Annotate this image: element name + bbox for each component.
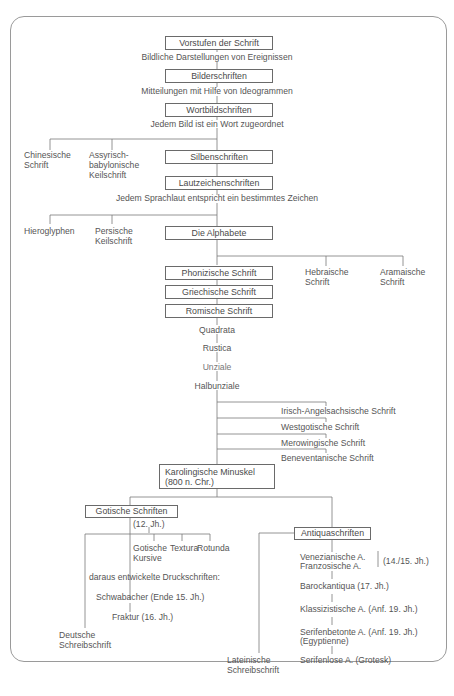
node-hebraeisch-1: Hebraische: [305, 267, 348, 277]
node-franzoesisch: Franzosische A.: [300, 561, 361, 571]
box-gotisch: Gotische Schriften: [85, 505, 178, 518]
node-lateinisch-2: Schreibschrift: [227, 665, 279, 675]
node-lateinisch-1: Lateinische: [227, 655, 270, 665]
karolingisch-label: Karolingische Minuskel: [165, 467, 274, 477]
gotisch-date: (12. Jh.): [133, 519, 165, 529]
node-chinesische-schrift-2: Schrift: [24, 160, 48, 170]
node-gotische-kursive-2: Kursive: [133, 553, 162, 563]
ven-fr-date: (14./15. Jh.): [383, 556, 429, 566]
node-rustica: Rustica: [203, 343, 232, 353]
box-silbenschriften: Silbenschriften: [165, 150, 273, 164]
node-egyptienne: (Egyptienne): [300, 636, 349, 646]
node-gotische-kursive-1: Gotische: [133, 543, 167, 553]
box-bilderschriften: Bilderschriften: [165, 69, 273, 83]
node-deutsche-schreibschrift-2: Schreibschrift: [59, 640, 111, 650]
node-persisch-2: Keilschrift: [95, 236, 132, 246]
node-klassizistisch: Klassizistische A. (Anf. 19. Jh.): [300, 604, 418, 614]
node-halbunziale: Halbunziale: [195, 381, 240, 391]
node-chinesische-schrift-1: Chinesische: [24, 150, 71, 160]
node-hieroglyphen: Hieroglyphen: [24, 226, 75, 236]
node-hebraeisch-2: Schrift: [305, 277, 329, 287]
box-wortbildschriften: Wortbildschriften: [165, 103, 273, 117]
node-aramaeisch-1: Aramaische: [380, 267, 425, 277]
node-persisch-1: Persische: [95, 226, 133, 236]
box-vorstufen: Vorstufen der Schrift: [165, 36, 273, 50]
node-serifenlos: Serifenlose A. (Grotesk): [300, 655, 391, 665]
box-roemisch: Romische Schrift: [165, 304, 273, 318]
note-druckschriften: daraus entwickelte Druckschriften:: [89, 572, 220, 582]
node-assyrisch-1: Assyrisch-: [89, 150, 129, 160]
node-textura: Textura: [170, 543, 198, 553]
node-beneventanisch: Beneventanische Schrift: [281, 453, 374, 463]
box-alphabete: Die Alphabete: [165, 226, 273, 240]
node-deutsche-schreibschrift-1: Deutsche: [59, 630, 95, 640]
node-westgotisch: Westgotische Schrift: [281, 422, 359, 432]
node-rotunda: Rotunda: [197, 543, 230, 553]
note-ideogramme: Mitteilungen mit Hilfe von Ideogrammen: [141, 86, 292, 96]
box-karolingisch: Karolingische Minuskel (800 n. Chr.): [159, 464, 275, 489]
box-phoenizisch: Phonizische Schrift: [165, 266, 273, 280]
note-sprachlaut: Jedem Sprachlaut entspricht ein bestimmt…: [116, 193, 318, 203]
karolingisch-date: (800 n. Chr.): [165, 477, 274, 487]
node-unziale: Unziale: [203, 362, 232, 372]
node-aramaeisch-2: Schrift: [380, 277, 404, 287]
note-wort-zugeordnet: Jedem Bild ist ein Wort zugeordnet: [150, 119, 283, 129]
node-assyrisch-3: Keilschrift: [89, 170, 126, 180]
node-schwabacher: Schwabacher (Ende 15. Jh.): [96, 592, 204, 602]
node-merowingisch: Merowingische Schrift: [281, 438, 365, 448]
note-bildliche-darstellungen: Bildliche Darstellungen von Ereignissen: [142, 52, 293, 62]
node-quadrata: Quadrata: [199, 325, 235, 335]
node-assyrisch-2: babylonische: [89, 160, 139, 170]
box-griechisch: Griechische Schrift: [165, 285, 273, 299]
box-antiqua: Antiquaschriften: [294, 527, 371, 540]
node-irisch-angelsaechsisch: Irisch-Angelsachsische Schrift: [281, 406, 396, 416]
box-lautzeichenschriften: Lautzeichenschriften: [165, 176, 273, 190]
node-barockantiqua: Barockantiqua (17. Jh.): [300, 581, 389, 591]
node-fraktur: Fraktur (16. Jh.): [112, 612, 173, 622]
